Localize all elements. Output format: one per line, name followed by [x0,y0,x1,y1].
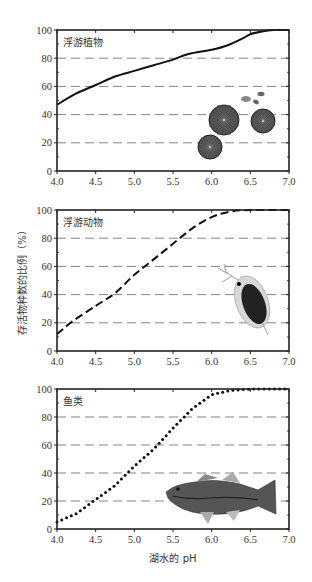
x-tick-label: 7.0 [282,176,295,187]
x-tick-label: 7.0 [282,534,295,545]
y-tick-label: 20 [42,496,53,507]
x-tick-label: 6.5 [244,356,257,367]
y-tick-label: 80 [42,233,53,244]
panel-title: 浮游动物 [63,216,103,228]
data-point [221,391,224,394]
data-point [172,426,175,429]
y-tick-label: 60 [42,440,53,451]
x-axis-title: 湖水的 pH [149,552,196,564]
data-point [79,509,82,512]
x-tick-label: 5.5 [166,534,179,545]
y-axis-title: 存活物种数的比例（%） [16,225,28,335]
y-tick-label: 80 [42,53,53,64]
data-point [207,396,210,399]
panel-title: 浮游植物 [63,36,103,48]
x-tick-label: 4.0 [50,534,63,545]
y-tick-label: 0 [47,346,52,357]
x-tick-label: 5.5 [166,356,179,367]
illustration-zooplankton-icon [218,264,276,335]
y-tick-label: 20 [42,317,53,328]
data-point [127,470,130,473]
y-tick-label: 40 [42,468,53,479]
data-point [100,494,103,497]
x-tick-label: 6.0 [205,534,218,545]
data-point [70,514,73,517]
data-point [186,412,189,415]
data-point [216,392,219,395]
data-point [202,399,205,402]
data-point [120,478,123,481]
data-point [139,459,142,462]
data-point [175,423,178,426]
panel-title: 鱼类 [63,395,83,407]
data-point [194,405,197,408]
x-tick-label: 4.5 [89,356,102,367]
y-tick-label: 60 [42,81,53,92]
data-point [116,481,119,484]
x-tick-label: 6.0 [205,176,218,187]
y-tick-label: 40 [42,289,53,300]
data-point [168,430,171,433]
data-point [158,442,161,445]
y-tick-label: 40 [42,109,53,120]
data-point [161,438,164,441]
data-point [226,390,229,393]
data-point [113,485,116,488]
x-tick-label: 7.0 [282,356,295,367]
y-tick-label: 0 [47,524,52,535]
y-tick-label: 0 [47,166,52,177]
figure: 0204060801004.04.55.05.56.06.57.0浮游植物020… [0,0,312,582]
x-tick-label: 6.5 [244,176,257,187]
y-tick-label: 100 [36,25,52,36]
data-point [179,419,182,422]
data-point [124,474,127,477]
x-tick-label: 6.5 [244,534,257,545]
data-point [154,446,157,449]
data-point [83,506,86,509]
data-point [91,500,94,503]
y-tick-label: 60 [42,261,53,272]
data-point [190,408,193,411]
x-tick-label: 4.0 [50,176,63,187]
data-point [211,393,214,396]
x-tick-label: 4.5 [89,176,102,187]
data-point [143,456,146,459]
y-tick-label: 100 [36,384,52,395]
y-tick-label: 100 [36,205,52,216]
chart-panel-1: 0204060801004.04.55.05.56.06.57.0浮游植物 [36,25,295,188]
illustration-fish-icon [166,472,276,524]
data-point [96,497,99,500]
x-tick-label: 5.0 [128,356,141,367]
data-point [135,463,138,466]
x-tick-label: 5.5 [166,176,179,187]
y-tick-label: 80 [42,412,53,423]
plot-frame [57,389,289,529]
x-tick-label: 6.0 [205,356,218,367]
chart-panel-2: 0204060801004.04.55.05.56.06.57.0浮游动物 [36,205,295,368]
data-point [146,453,149,456]
x-tick-label: 4.5 [89,534,102,545]
data-point [65,516,68,519]
chart-panel-3: 0204060801004.04.55.05.56.06.57.0鱼类 [36,384,295,546]
x-tick-label: 5.0 [128,176,141,187]
data-point [75,512,78,515]
data-point [150,449,153,452]
illustration-phytoplankton-icon [198,92,275,159]
data-point [183,415,186,418]
data-point [104,491,107,494]
data-point [87,503,90,506]
x-tick-label: 5.0 [128,534,141,545]
data-point [165,434,168,437]
data-point [131,466,134,469]
data-point [60,518,63,521]
x-tick-label: 4.0 [50,356,63,367]
data-point [108,488,111,491]
data-point [198,402,201,405]
y-tick-label: 20 [42,137,53,148]
